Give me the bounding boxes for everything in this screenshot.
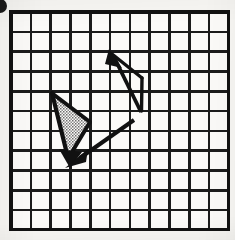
grid-field bbox=[11, 12, 229, 230]
figure-root bbox=[0, 0, 235, 240]
vector-grid-figure bbox=[0, 0, 235, 240]
upper-vector-right-edge bbox=[142, 78, 143, 111]
grid bbox=[11, 12, 229, 230]
